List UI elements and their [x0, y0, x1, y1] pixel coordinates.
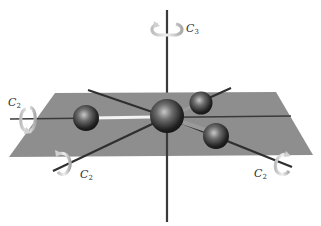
c2-left-label: C2: [8, 96, 21, 110]
atom-left: [73, 105, 99, 131]
atom-lower-right: [203, 123, 229, 149]
c3-label: C3: [186, 22, 199, 36]
symmetry-diagram: C3 C2 C2 C2: [0, 0, 321, 226]
atom-upper-right: [190, 92, 213, 115]
c2-front-right-label: C2: [254, 167, 267, 181]
atom-central: [150, 99, 184, 133]
c2-left-rotation-arrow-icon: [21, 107, 36, 134]
c2-front-left-label: C2: [80, 168, 93, 182]
bond-left: [92, 117, 155, 118]
